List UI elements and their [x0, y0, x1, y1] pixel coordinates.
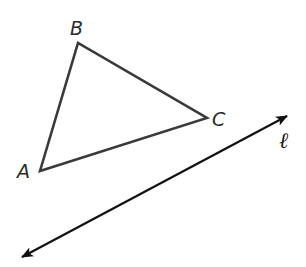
line-l — [22, 116, 287, 257]
geometry-diagram: B A C ℓ — [0, 0, 306, 267]
line-label-l: ℓ — [279, 128, 289, 153]
vertex-label-a: A — [15, 160, 30, 182]
triangle-abc — [40, 43, 207, 171]
vertex-label-b: B — [70, 17, 83, 39]
diagram-svg: B A C ℓ — [0, 0, 306, 267]
vertex-label-c: C — [212, 108, 226, 130]
